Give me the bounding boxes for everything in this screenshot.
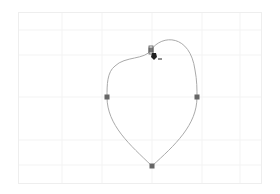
pen-tool-cursor-icon xyxy=(151,53,162,60)
vector-layer[interactable] xyxy=(0,0,280,194)
canvas-grid xyxy=(19,13,261,183)
anchor-point-left[interactable] xyxy=(105,95,110,100)
editor-stage xyxy=(0,0,280,194)
anchor-point-right[interactable] xyxy=(195,95,200,100)
anchor-point-bottom[interactable] xyxy=(150,164,155,169)
